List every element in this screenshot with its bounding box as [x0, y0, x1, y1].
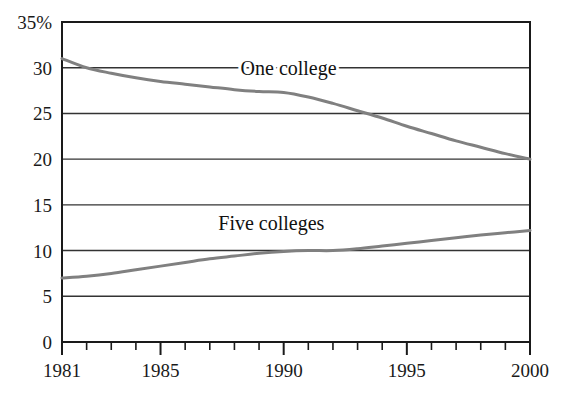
y-tick-label-35: 35%	[17, 12, 52, 33]
x-tick-label-1985: 1985	[142, 360, 180, 381]
y-tick-label-25: 25	[33, 103, 52, 124]
y-tick-label-15: 15	[33, 195, 52, 216]
y-tick-label-30: 30	[33, 58, 52, 79]
x-tick-label-1981: 1981	[43, 360, 81, 381]
y-tick-label-5: 5	[43, 286, 53, 307]
y-tick-label-0: 0	[43, 332, 53, 353]
series-label-one-college: One college	[241, 57, 337, 80]
line-chart: 05101520253035% 19811985199019952000 One…	[0, 0, 583, 397]
x-tick-label-2000: 2000	[511, 360, 549, 381]
series-label-five-colleges: Five colleges	[218, 212, 324, 235]
y-tick-label-20: 20	[33, 149, 52, 170]
y-tick-label-10: 10	[33, 241, 52, 262]
chart-canvas: 05101520253035% 19811985199019952000 One…	[0, 0, 583, 397]
x-tick-label-1990: 1990	[265, 360, 303, 381]
x-tick-label-1995: 1995	[388, 360, 426, 381]
